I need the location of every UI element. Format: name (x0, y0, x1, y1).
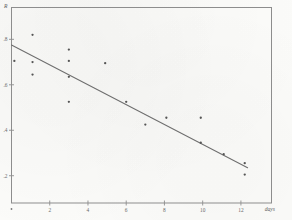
x-tick-label: 8 (163, 207, 166, 213)
x-axis-label: days (265, 206, 275, 212)
data-point (31, 34, 33, 36)
scatter-plot-svg: .2.4.6.8 24681012 R days (0, 0, 292, 220)
x-tick-label: 12 (238, 207, 244, 213)
regression-line (12, 45, 248, 168)
data-point (68, 60, 70, 62)
data-point (68, 101, 70, 103)
plot-frame (12, 8, 272, 204)
x-axis-ticks: 24681012 (11, 201, 244, 214)
data-point (244, 162, 246, 164)
data-point (165, 117, 167, 119)
data-points (13, 34, 246, 176)
x-tick-label: 4 (87, 207, 90, 213)
data-point (68, 76, 70, 78)
origin-mark (11, 208, 13, 210)
data-point (104, 62, 106, 64)
data-point (13, 60, 15, 62)
fit-line-segment (12, 45, 248, 168)
y-axis-label: R (3, 3, 8, 9)
x-tick-label: 2 (48, 207, 51, 213)
data-point (223, 153, 225, 155)
y-tick-label: .4 (3, 127, 7, 133)
data-point (125, 101, 127, 103)
x-tick-label: 6 (125, 207, 128, 213)
data-point (200, 142, 202, 144)
data-point (200, 117, 202, 119)
figure-canvas: .2.4.6.8 24681012 R days (0, 0, 292, 220)
y-tick-label: .2 (3, 173, 7, 179)
data-point (244, 173, 246, 175)
data-point (68, 48, 70, 50)
data-point (31, 73, 33, 75)
x-tick-label: 10 (200, 207, 206, 213)
y-axis-ticks: .2.4.6.8 (3, 36, 14, 178)
y-tick-label: .6 (3, 82, 7, 88)
data-point (144, 123, 146, 125)
data-point (31, 61, 33, 63)
frame-border (12, 8, 272, 204)
y-tick-label: .8 (3, 36, 7, 42)
